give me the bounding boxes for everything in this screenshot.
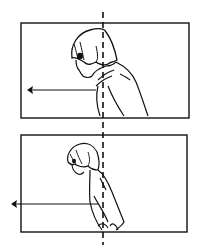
panel-top-frame [21, 23, 189, 118]
diagram-canvas [0, 0, 205, 251]
panel-top [21, 23, 189, 118]
bottom-person-body [90, 170, 124, 230]
top-person-eye [77, 53, 83, 59]
panel-bottom-frame [21, 135, 187, 232]
posture-diagram [0, 0, 205, 251]
bottom-person-eye [72, 159, 76, 163]
top-person-hair [72, 29, 117, 65]
top-person-collar [92, 62, 116, 86]
panel-bottom [11, 135, 187, 232]
top-person-body [97, 62, 148, 116]
